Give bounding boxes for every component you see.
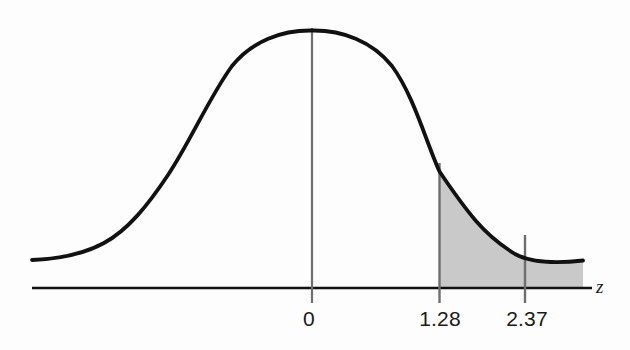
tick-label-center: 0 [303,307,315,331]
tick-label-upper-bound: 2.37 [506,307,548,331]
axis-label-z: z [596,276,603,298]
bell-curve-path [32,30,583,262]
normal-curve-plot [0,0,630,350]
shaded-tail-region [440,172,584,289]
normal-curve-figure: 0 1.28 2.37 z [0,0,630,350]
tick-label-lower-bound: 1.28 [419,307,461,331]
